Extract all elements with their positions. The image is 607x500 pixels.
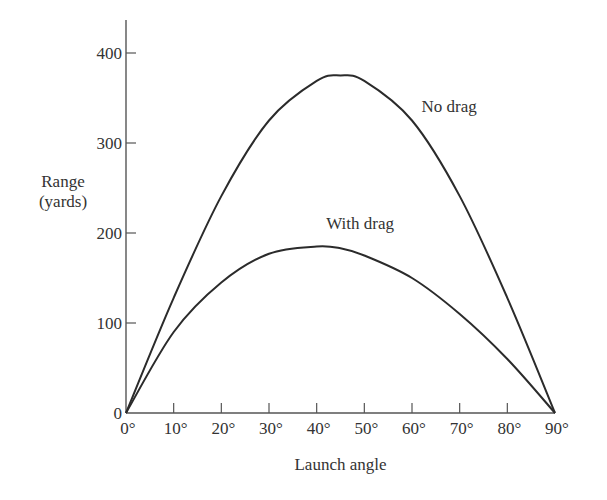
no-drag-label: No drag: [422, 97, 478, 116]
y-axis-title: (yards): [39, 192, 87, 211]
x-tick-label: 30°: [259, 419, 283, 438]
y-tick-label: 300: [97, 134, 123, 153]
range-vs-launch-angle-chart: 01002003004000°10°20°30°40°50°60°70°80°9…: [0, 0, 607, 500]
y-tick-label: 100: [97, 314, 123, 333]
x-tick-label: 20°: [211, 419, 235, 438]
y-tick-label: 400: [97, 44, 123, 63]
x-tick-label: 60°: [402, 419, 426, 438]
x-tick-label: 70°: [450, 419, 474, 438]
y-axis-title: Range: [41, 172, 84, 191]
x-tick-label: 0°: [120, 419, 135, 438]
x-axis-title: Launch angle: [294, 455, 386, 474]
labels: Launch angleRange(yards)No dragWith drag: [39, 97, 477, 475]
x-tick-label: 40°: [307, 419, 331, 438]
x-tick-label: 80°: [497, 419, 521, 438]
with-drag-label: With drag: [326, 214, 394, 233]
curves: [126, 75, 555, 413]
x-tick-label: 90°: [545, 419, 569, 438]
with-drag-curve: [126, 246, 555, 413]
x-tick-label: 50°: [354, 419, 378, 438]
y-tick-label: 200: [97, 224, 123, 243]
x-tick-label: 10°: [164, 419, 188, 438]
no-drag-curve: [126, 75, 555, 413]
